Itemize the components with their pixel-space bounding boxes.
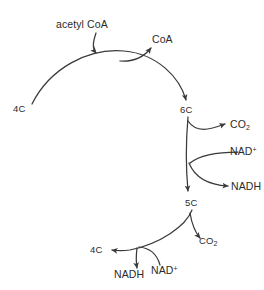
label-4c-left: 4C xyxy=(13,103,25,114)
label-nad-plus-lower-superscript: + xyxy=(173,265,177,272)
label-co2-lower-subscript: 2 xyxy=(213,240,217,247)
arc-6c-to-5c xyxy=(187,117,189,191)
label-co2-upper-subscript: 2 xyxy=(246,124,250,131)
label-nad-plus-upper: NAD+ xyxy=(230,146,257,158)
label-nadh-lower: NADH xyxy=(114,269,144,280)
label-6c: 6C xyxy=(180,104,192,115)
label-nad-plus-lower-text: NAD xyxy=(151,264,173,276)
label-co2-upper: CO2 xyxy=(230,119,250,131)
label-acetyl-coa: acetyl CoA xyxy=(56,19,108,30)
cycle-diagram: acetyl CoA CoA 4C 6C CO2 NAD+ NADH 5C CO… xyxy=(0,0,264,290)
label-coa: CoA xyxy=(152,34,173,45)
label-nad-plus-upper-text: NAD xyxy=(230,145,252,157)
arc-4c-to-6c xyxy=(32,51,186,104)
arrow-acetyl-coa-in xyxy=(93,33,96,53)
label-co2-lower: CO2 xyxy=(199,235,217,247)
label-co2-lower-text: CO xyxy=(199,235,213,246)
label-nad-plus-upper-superscript: + xyxy=(252,146,256,153)
label-co2-upper-text: CO xyxy=(230,118,246,130)
label-nadh-upper: NADH xyxy=(231,181,261,192)
arrow-nadh-lower-out xyxy=(136,248,137,268)
label-nad-plus-lower: NAD+ xyxy=(151,265,178,277)
arc-5c-to-4c xyxy=(112,210,192,251)
label-4c-bottom: 4C xyxy=(90,244,102,255)
label-5c: 5C xyxy=(185,197,197,208)
arrow-nadplus-lower-in xyxy=(139,247,160,265)
arrow-co2-upper-out xyxy=(188,121,225,129)
arrow-nadh-upper-out xyxy=(189,163,228,186)
arrow-coa-out xyxy=(120,48,151,61)
cycle-diagram-canvas xyxy=(0,0,264,290)
